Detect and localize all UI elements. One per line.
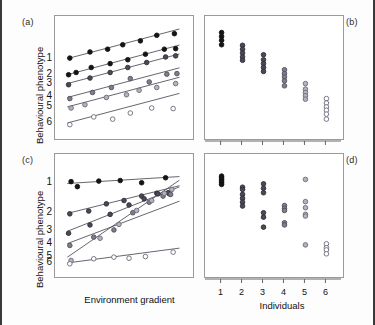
x-tick-label-5: 5 bbox=[298, 288, 310, 297]
plot-panel-d bbox=[204, 153, 344, 278]
plot-panel-c bbox=[54, 153, 194, 278]
panel-letter-c: (c) bbox=[22, 155, 33, 165]
series-label-c-4: 4 bbox=[40, 238, 52, 248]
series-label-a-5: 5 bbox=[40, 101, 52, 111]
series-label-c-6: 6 bbox=[40, 257, 52, 267]
series-label-a-1: 1 bbox=[40, 53, 52, 63]
x-tick-label-4: 4 bbox=[277, 288, 289, 297]
panel-letter-d: (d) bbox=[346, 155, 358, 165]
x-tick-label-6: 6 bbox=[319, 288, 331, 297]
x-tick-label-2: 2 bbox=[236, 288, 248, 297]
series-label-a-6: 6 bbox=[40, 117, 52, 127]
x-axis-ticks-panel-b bbox=[201, 140, 351, 156]
series-label-c-2: 2 bbox=[40, 207, 52, 217]
figure-container: (a) (b) (c) (d) Behavioural phenotype Be… bbox=[0, 0, 375, 325]
x-axis-label-left: Environment gradient bbox=[62, 294, 197, 305]
plot-b-canvas bbox=[205, 16, 343, 139]
x-tick-label-3: 3 bbox=[257, 288, 269, 297]
plot-a-canvas bbox=[55, 16, 193, 139]
panel-letter-a: (a) bbox=[22, 17, 34, 27]
plot-c-canvas bbox=[55, 154, 193, 277]
series-label-c-1: 1 bbox=[40, 177, 52, 187]
panel-letter-b: (b) bbox=[346, 17, 358, 27]
plot-panel-b bbox=[204, 15, 344, 140]
series-label-c-3: 3 bbox=[40, 225, 52, 235]
x-axis-label-right: Individuals bbox=[232, 300, 332, 311]
x-tick-label-1: 1 bbox=[215, 288, 227, 297]
series-label-a-3: 3 bbox=[40, 78, 52, 88]
plot-d-canvas bbox=[205, 154, 343, 277]
plot-panel-a bbox=[54, 15, 194, 140]
